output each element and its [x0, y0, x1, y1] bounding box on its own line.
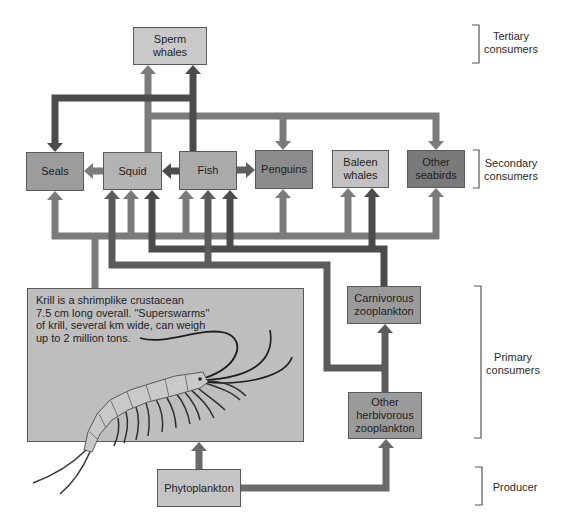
food-web-arrows [0, 0, 565, 528]
node-squid: Squid [103, 152, 162, 190]
level-label-secondary: Secondary consumers [481, 157, 541, 183]
arrow-squid-to-sperm-whales [140, 65, 156, 152]
node-baleen-whales: Baleen whales [332, 150, 389, 188]
node-carnivorous-zooplankton: Carnivorous zooplankton [347, 286, 421, 324]
node-label: Sperm [154, 33, 186, 46]
node-label: whales [343, 169, 377, 182]
bracket-secondary [473, 150, 479, 188]
food-web-diagram: Sperm whales Seals Squid Fish Penguins B… [0, 0, 565, 528]
node-label: Fish [198, 164, 219, 177]
arrow-fish-to-squid [162, 163, 179, 179]
node-label: zooplankton [355, 422, 414, 435]
level-label-line: consumers [483, 364, 543, 377]
krill-note-line: up to 2 million tons. [36, 332, 131, 345]
node-label: Squid [118, 165, 146, 178]
arrow-fish-to-sperm-whales [185, 65, 201, 151]
node-other-seabirds: Other seabirds [407, 150, 465, 188]
bracket-producer [475, 467, 482, 505]
arrows-krill-to-secondary [47, 188, 444, 288]
node-label: whales [153, 46, 187, 59]
level-label-line: consumers [481, 170, 541, 183]
node-label: herbivorous [356, 409, 413, 422]
node-label: zooplankton [354, 305, 413, 318]
arrow-squid-to-penguins-and-seabirds [148, 116, 444, 150]
node-label: Other [422, 156, 450, 169]
arrow-fish-to-seals [47, 98, 193, 152]
node-label: Carnivorous [354, 292, 413, 305]
level-label-line: consumers [481, 43, 541, 56]
level-label-line: Primary [483, 351, 543, 364]
level-label-line: Secondary [481, 157, 541, 170]
node-phytoplankton: Phytoplankton [157, 469, 241, 507]
node-krill: Krill is a shrimplike crustacean 7.5 cm … [27, 288, 304, 442]
level-label-line: Producer [485, 481, 545, 494]
node-penguins: Penguins [255, 150, 313, 189]
bracket-primary [474, 286, 481, 438]
node-label: Seals [41, 165, 69, 178]
level-label-producer: Producer [485, 481, 545, 494]
level-label-line: Tertiary [481, 30, 541, 43]
node-seals: Seals [26, 152, 84, 191]
node-label: Penguins [261, 163, 307, 176]
node-label: Other [371, 396, 399, 409]
level-label-primary: Primary consumers [483, 351, 543, 377]
krill-note-line: Krill is a shrimplike crustacean [36, 294, 184, 307]
node-label: Baleen [343, 156, 377, 169]
krill-note-line: 7.5 cm long overall. "Superswarms" [36, 307, 210, 320]
level-label-tertiary: Tertiary consumers [481, 30, 541, 56]
bracket-tertiary [472, 25, 479, 63]
node-label: seabirds [415, 169, 457, 182]
node-fish: Fish [179, 151, 237, 190]
node-sperm-whales: Sperm whales [133, 27, 207, 65]
arrows-carnivorous-zooplankton [144, 188, 384, 286]
krill-note-line: of krill, several km wide, can weigh [36, 319, 205, 332]
arrow-squid-to-seals [84, 163, 103, 179]
arrow-fish-to-penguins [237, 162, 255, 178]
node-other-herbivorous-zooplankton: Other herbivorous zooplankton [348, 392, 422, 439]
node-label: Phytoplankton [164, 482, 234, 495]
